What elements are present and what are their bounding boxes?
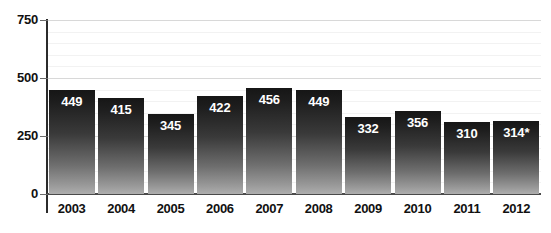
x-axis-label: 2006 [195,202,244,216]
gridline-minor [47,90,541,91]
bar: 456 [246,88,292,194]
x-axis-label: 2007 [245,202,294,216]
y-tick-label-text: 250 [0,129,38,142]
bar: 310 [444,122,490,194]
bar: 332 [345,117,391,194]
y-tick-mark [40,20,48,21]
bar-chart: 0250500750 44941534542245644933235631031… [0,0,551,233]
gridline-minor [47,66,541,67]
gridline-major [47,78,541,79]
x-axis-label: 2010 [393,202,442,216]
x-axis-label: 2012 [492,202,541,216]
y-tick-label: 750 [0,13,38,26]
bar-value-label: 332 [345,122,391,135]
y-axis-line [46,19,48,213]
y-tick-label: 250 [0,129,38,142]
y-tick-mark [40,78,48,79]
y-tick-mark [40,194,48,195]
bar: 415 [98,98,144,194]
bar-value-label: 449 [49,95,95,108]
bar: 449 [49,90,95,194]
bar-value-label: 310 [444,127,490,140]
y-tick-label: 0 [0,187,38,200]
x-axis-label: 2009 [343,202,392,216]
bar-value-label: 345 [148,119,194,132]
bar-value-label: 356 [395,116,441,129]
gridline-major [47,20,541,21]
bar-value-label: 449 [296,95,342,108]
x-axis-label: 2004 [96,202,145,216]
y-tick-label-text: 500 [0,71,38,84]
x-axis-label: 2008 [294,202,343,216]
y-tick-label: 500 [0,71,38,84]
bar: 356 [395,111,441,194]
x-axis-label: 2003 [47,202,96,216]
gridline-minor [47,55,541,56]
bar: 314* [493,121,539,194]
x-axis-label: 2005 [146,202,195,216]
bar: 449 [296,90,342,194]
gridline-minor [47,32,541,33]
bar: 345 [148,114,194,194]
bar: 422 [197,96,243,194]
bar-value-label: 314* [493,126,539,139]
bar-value-label: 456 [246,93,292,106]
y-tick-mark [40,136,48,137]
gridline-minor [47,43,541,44]
x-axis-label: 2011 [442,202,491,216]
bar-value-label: 422 [197,101,243,114]
y-tick-label-text: 0 [0,187,38,200]
y-tick-label-text: 750 [0,13,38,26]
bar-value-label: 415 [98,103,144,116]
